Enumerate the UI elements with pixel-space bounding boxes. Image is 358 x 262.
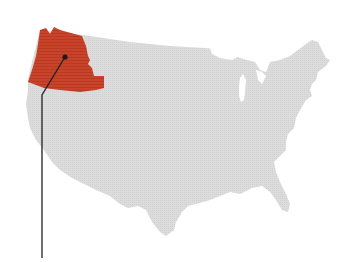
leader-anchor-dot <box>62 54 67 59</box>
us-map <box>0 0 358 262</box>
us-map-graphic <box>0 0 358 262</box>
